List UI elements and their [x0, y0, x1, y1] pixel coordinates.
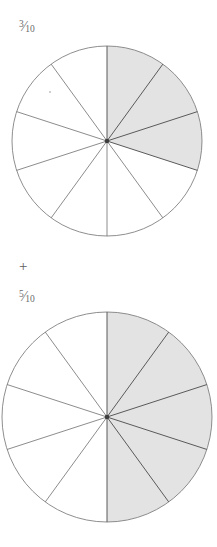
pie-center-hub [105, 139, 110, 144]
pie-spoke-7 [17, 141, 107, 170]
pie-spoke-7 [7, 417, 107, 449]
plus-sign-icon: + [19, 259, 27, 274]
pie-slice-shaded-group [107, 312, 212, 522]
fraction-denominator: 10 [25, 24, 35, 34]
pie-spoke-6 [45, 417, 107, 502]
pie-chart-first-term [0, 36, 217, 250]
worksheet-canvas: 3⁄10 [0, 0, 217, 547]
scan-speck [49, 91, 51, 93]
pie-bottom-svg [0, 305, 217, 535]
pie-top-slices [107, 46, 202, 170]
pie-spoke-6 [51, 141, 107, 218]
pie-spoke-9 [51, 64, 107, 141]
fraction-denominator: 10 [25, 294, 35, 304]
fraction-label-second-term: 5⁄10 [19, 290, 35, 304]
pie-spoke-8 [7, 385, 107, 417]
pie-center-hub [105, 415, 110, 420]
pie-spoke-8 [17, 112, 107, 141]
pie-slice-shaded-group [107, 46, 202, 170]
pie-bottom-slices [107, 312, 212, 522]
pie-chart-second-term [0, 305, 217, 535]
pie-spoke-9 [45, 332, 107, 417]
fraction-label-first-term: 3⁄10 [19, 20, 35, 34]
pie-top-svg [0, 36, 217, 250]
